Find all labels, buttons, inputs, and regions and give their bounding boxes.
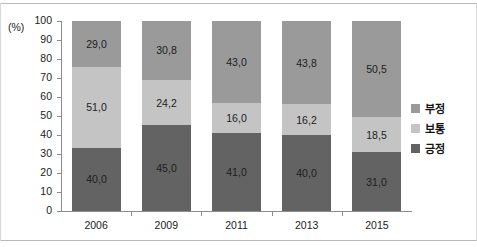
stacked-bar[interactable]: 43,016,041,0 — [212, 21, 261, 211]
x-tick-label: 2015 — [337, 219, 417, 231]
stacked-bar[interactable]: 43,816,240,0 — [282, 21, 331, 211]
bar-segment[interactable]: 16,2 — [282, 104, 331, 135]
stacked-bar[interactable]: 50,518,531,0 — [352, 21, 401, 211]
bar-value-label: 40,0 — [72, 174, 121, 185]
stacked-bar[interactable]: 29,051,040,0 — [72, 21, 121, 211]
bar-value-label: 43,8 — [282, 57, 331, 68]
bar-segment[interactable]: 18,5 — [352, 117, 401, 152]
x-tick-mark — [201, 212, 202, 216]
bar-value-label: 29,0 — [72, 38, 121, 49]
bar-segment[interactable]: 45,0 — [142, 125, 191, 211]
bar-group: 30,824,245,0 — [142, 21, 191, 211]
legend-swatch-icon — [411, 144, 420, 153]
x-tick-label: 2009 — [126, 219, 206, 231]
bar-segment[interactable]: 31,0 — [352, 152, 401, 211]
chart-legend: 부정보통긍정 — [411, 98, 473, 158]
bar-value-label: 45,0 — [142, 163, 191, 174]
plot-area: 29,051,040,0200630,824,245,0200943,016,0… — [0, 0, 477, 247]
bar-segment[interactable]: 30,8 — [142, 21, 191, 80]
bar-segment[interactable]: 40,0 — [282, 135, 331, 211]
bar-value-label: 31,0 — [352, 176, 401, 187]
legend-label: 보통 — [425, 120, 445, 136]
bar-segment[interactable]: 51,0 — [72, 67, 121, 148]
bar-value-label: 50,5 — [352, 63, 401, 74]
bar-value-label: 51,0 — [72, 102, 121, 113]
bar-segment[interactable]: 41,0 — [212, 133, 261, 211]
bar-value-label: 16,0 — [212, 112, 261, 123]
x-tick-label: 2011 — [197, 219, 277, 231]
x-tick-mark — [342, 212, 343, 216]
bar-group: 29,051,040,0 — [72, 21, 121, 211]
bar-group: 50,518,531,0 — [352, 21, 401, 211]
legend-item-2[interactable]: 긍정 — [411, 138, 473, 158]
bar-group: 43,016,041,0 — [212, 21, 261, 211]
bar-value-label: 41,0 — [212, 167, 261, 178]
bar-group: 43,816,240,0 — [282, 21, 331, 211]
stacked-bar[interactable]: 30,824,245,0 — [142, 21, 191, 211]
legend-swatch-icon — [411, 124, 420, 133]
x-tick-label: 2006 — [56, 219, 136, 231]
bar-value-label: 43,0 — [212, 56, 261, 67]
bar-value-label: 16,2 — [282, 114, 331, 125]
chart-figure: (%) 0102030405060708090100 29,051,040,02… — [0, 0, 477, 247]
bar-segment[interactable]: 50,5 — [352, 21, 401, 117]
x-tick-label: 2013 — [267, 219, 347, 231]
legend-label: 긍정 — [425, 140, 445, 156]
bar-value-label: 30,8 — [142, 45, 191, 56]
x-tick-mark — [272, 212, 273, 216]
legend-item-1[interactable]: 보통 — [411, 118, 473, 138]
bar-segment[interactable]: 43,0 — [212, 21, 261, 103]
bar-segment[interactable]: 40,0 — [72, 148, 121, 211]
legend-item-0[interactable]: 부정 — [411, 98, 473, 118]
legend-swatch-icon — [411, 104, 420, 113]
bar-value-label: 24,2 — [142, 97, 191, 108]
bar-segment[interactable]: 29,0 — [72, 21, 121, 67]
legend-label: 부정 — [425, 100, 445, 116]
bar-segment[interactable]: 43,8 — [282, 21, 331, 104]
x-tick-mark — [131, 212, 132, 216]
bar-value-label: 18,5 — [352, 129, 401, 140]
bar-value-label: 40,0 — [282, 167, 331, 178]
bar-segment[interactable]: 24,2 — [142, 80, 191, 126]
bar-segment[interactable]: 16,0 — [212, 103, 261, 133]
